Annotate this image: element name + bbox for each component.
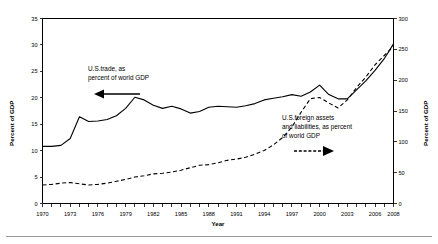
foreign-assets-annotation: U.S.foreign assets and liabilities, as p… bbox=[282, 114, 352, 156]
x-axis-tick-label: 2006 bbox=[369, 211, 381, 217]
chart-svg: 05101520253035 050100150200250300 197019… bbox=[0, 0, 438, 244]
y-axis-left-tick-label: 35 bbox=[31, 16, 37, 22]
x-axis-tick-label: 2008 bbox=[387, 211, 399, 217]
x-axis-tick-label: 1991 bbox=[230, 211, 242, 217]
trade-annotation-line-1: U.S.trade, as bbox=[88, 65, 125, 72]
x-axis-tick-label: 2003 bbox=[341, 211, 353, 217]
x-axis-tick-label: 1982 bbox=[147, 211, 159, 217]
y-axis-right-title: Percent of GDP bbox=[422, 101, 429, 146]
x-axis-tick-label: 1985 bbox=[175, 211, 187, 217]
y-axis-left-tick-label: 10 bbox=[31, 148, 37, 154]
trade-annotation-line-2: percent of world GDP bbox=[88, 74, 149, 82]
series-line-us-trade bbox=[43, 44, 394, 147]
trade-annotation-arrow-left-icon bbox=[94, 90, 140, 99]
y-axis-left-tick-label: 0 bbox=[34, 201, 37, 207]
y-axis-left-tick-label: 20 bbox=[31, 95, 37, 101]
foreign-assets-annotation-line-2: and liabilities, as percent bbox=[282, 123, 352, 131]
y-axis-left-title: Percent of GDP bbox=[8, 101, 15, 146]
y-axis-right-tick-label: 50 bbox=[399, 170, 405, 176]
trade-annotation: U.S.trade, as percent of world GDP bbox=[88, 65, 149, 98]
y-axis-left-tick-label: 25 bbox=[31, 68, 37, 74]
x-axis-tick-label: 1973 bbox=[64, 211, 76, 217]
y-axis-right-tick-label: 250 bbox=[399, 46, 408, 52]
foreign-assets-annotation-arrow-right-icon bbox=[294, 146, 334, 156]
y-axis-right-ticks: 050100150200250300 bbox=[394, 16, 408, 207]
axes bbox=[43, 18, 394, 204]
y-axis-left-tick-label: 30 bbox=[31, 42, 37, 48]
y-axis-right-tick-label: 0 bbox=[399, 201, 402, 207]
footer-divider bbox=[6, 236, 432, 237]
x-axis-tick-label: 1997 bbox=[286, 211, 298, 217]
y-axis-left-ticks: 05101520253035 bbox=[31, 16, 42, 207]
x-axis-tick-label: 2000 bbox=[313, 211, 325, 217]
y-axis-right-tick-label: 150 bbox=[399, 108, 408, 114]
x-axis-tick-label: 1976 bbox=[92, 211, 104, 217]
foreign-assets-annotation-line-3: of world GDP bbox=[282, 132, 320, 139]
x-axis-tick-label: 1994 bbox=[258, 211, 270, 217]
x-axis-tick-label: 1970 bbox=[36, 211, 48, 217]
x-axis-tick-label: 1988 bbox=[203, 211, 215, 217]
y-axis-left-tick-label: 5 bbox=[34, 174, 37, 180]
x-axis-ticks: 1970197319761979198219851988199119941997… bbox=[36, 204, 399, 217]
chart-figure: 05101520253035 050100150200250300 197019… bbox=[0, 0, 438, 244]
x-axis-tick-label: 1979 bbox=[119, 211, 131, 217]
x-axis-title: Year bbox=[211, 220, 225, 227]
y-axis-right-tick-label: 300 bbox=[399, 16, 408, 22]
y-axis-right-tick-label: 200 bbox=[399, 77, 408, 83]
y-axis-right-tick-label: 100 bbox=[399, 139, 408, 145]
y-axis-left-tick-label: 15 bbox=[31, 121, 37, 127]
foreign-assets-annotation-line-1: U.S.foreign assets bbox=[282, 114, 334, 122]
